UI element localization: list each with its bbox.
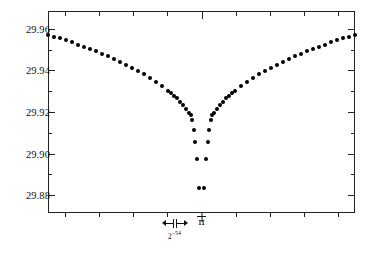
x-tick-minor — [133, 213, 134, 217]
data-point — [76, 43, 80, 47]
data-point — [335, 38, 339, 42]
y-axis-tick-label: 29.92 — [26, 107, 50, 118]
y-tick-minor — [351, 91, 355, 92]
data-point — [70, 40, 74, 44]
data-point — [287, 57, 291, 61]
x-axis-span-annotation: 2−54 — [147, 219, 203, 241]
data-point — [195, 157, 199, 161]
data-point — [197, 186, 201, 190]
data-point — [94, 49, 98, 53]
data-point — [299, 52, 303, 56]
data-point — [209, 118, 213, 122]
data-point — [251, 76, 255, 80]
x-tick-minor — [65, 213, 66, 217]
y-tick-minor — [351, 174, 355, 175]
x-tick-minor — [338, 213, 339, 217]
y-tick-minor — [48, 50, 52, 51]
data-point — [233, 89, 237, 93]
data-point — [257, 72, 261, 76]
data-point — [305, 49, 309, 53]
x-tick-minor — [304, 213, 305, 217]
x-tick-minor — [99, 12, 100, 16]
x-tick-minor — [338, 12, 339, 16]
y-tick-major — [348, 70, 355, 71]
x-tick-minor — [236, 12, 237, 16]
data-point — [317, 45, 321, 49]
y-tick-minor — [351, 133, 355, 134]
x-tick-minor — [304, 12, 305, 16]
data-point — [88, 47, 92, 51]
plot-frame — [48, 11, 355, 213]
data-point — [202, 186, 206, 190]
span-bar-left — [173, 219, 174, 228]
x-tick-minor — [167, 213, 168, 217]
data-point — [58, 36, 62, 40]
chart-canvas: 29.9629.9429.9229.9029.88 π 2−54 — [0, 0, 373, 253]
y-tick-minor — [351, 50, 355, 51]
data-point — [118, 60, 122, 64]
arrow-line-left — [165, 223, 173, 224]
data-point — [193, 140, 197, 144]
data-point — [341, 36, 345, 40]
data-point — [148, 76, 152, 80]
data-point — [212, 111, 216, 115]
data-point — [207, 128, 211, 132]
data-point — [124, 63, 128, 67]
data-point — [293, 54, 297, 58]
data-point — [269, 66, 273, 70]
x-tick-center — [202, 12, 203, 19]
x-tick-minor — [99, 213, 100, 217]
arrow-head-right — [184, 220, 188, 226]
data-point — [64, 38, 68, 42]
data-point — [189, 113, 193, 117]
data-point — [245, 80, 249, 84]
data-point — [142, 72, 146, 76]
y-tick-major — [348, 195, 355, 196]
y-axis-tick-label: 29.90 — [26, 148, 50, 159]
data-point — [206, 140, 210, 144]
x-tick-minor — [270, 213, 271, 217]
data-point — [160, 84, 164, 88]
data-point — [329, 40, 333, 44]
x-tick-minor — [270, 12, 271, 16]
data-point — [46, 33, 50, 37]
y-axis-tick-label: 29.88 — [26, 190, 50, 201]
data-point — [215, 107, 219, 111]
data-point — [353, 33, 357, 37]
x-tick-minor — [236, 213, 237, 217]
data-point — [52, 35, 56, 39]
data-point — [311, 47, 315, 51]
y-tick-major — [348, 154, 355, 155]
data-point — [218, 103, 222, 107]
data-point — [190, 118, 194, 122]
data-point — [136, 69, 140, 73]
x-tick-minor — [133, 12, 134, 16]
span-exponent: −54 — [172, 230, 181, 236]
y-tick-major — [348, 112, 355, 113]
span-magnitude-label: 2−54 — [147, 229, 203, 241]
data-point — [281, 60, 285, 64]
span-arrow-pair — [162, 219, 188, 228]
data-point — [275, 63, 279, 67]
data-point — [154, 80, 158, 84]
y-tick-minor — [48, 174, 52, 175]
data-point — [263, 69, 267, 73]
data-point — [130, 66, 134, 70]
data-point — [82, 45, 86, 49]
data-point — [204, 157, 208, 161]
data-point — [106, 54, 110, 58]
data-point — [100, 52, 104, 56]
data-point — [347, 35, 351, 39]
data-point — [239, 84, 243, 88]
data-point — [323, 43, 327, 47]
data-point — [192, 128, 196, 132]
data-point — [112, 57, 116, 61]
y-tick-minor — [48, 91, 52, 92]
x-tick-minor — [167, 12, 168, 16]
x-tick-minor — [65, 12, 66, 16]
y-tick-major — [348, 29, 355, 30]
y-tick-minor — [48, 133, 52, 134]
y-axis-tick-label: 29.94 — [26, 65, 50, 76]
